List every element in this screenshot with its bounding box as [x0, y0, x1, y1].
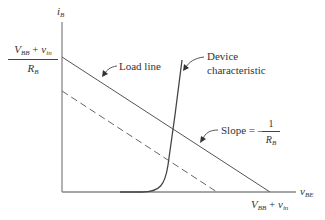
slope-fraction: 1 RB: [262, 118, 280, 147]
device-characteristic-curve: [120, 60, 182, 192]
device-leader: [186, 57, 204, 67]
y-intercept-label: VBB + vin RB: [8, 43, 58, 76]
y-axis-label: iB: [57, 6, 64, 19]
device-label-line1: Device: [207, 51, 238, 62]
diagram-canvas: [0, 0, 325, 220]
load-line-leader: [105, 66, 117, 73]
x-intercept-label: VBB + vin: [251, 199, 288, 212]
slope-label: Slope = –: [221, 125, 263, 136]
dashed-load-line: [62, 91, 217, 192]
slope-leader: [203, 130, 218, 139]
slope-arrow-icon: [200, 136, 206, 143]
device-arrow-icon: [183, 64, 189, 71]
load-line-label: Load line: [119, 61, 161, 72]
x-axis-label: vBE: [300, 186, 313, 199]
device-label-line2: characteristic: [207, 65, 266, 76]
